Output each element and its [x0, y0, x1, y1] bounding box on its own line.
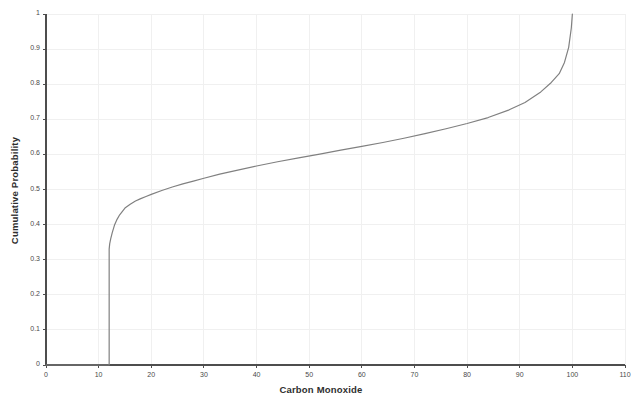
x-tick-label: 70 [399, 371, 429, 378]
plot-canvas [0, 0, 642, 408]
y-tick-label: 0.9 [12, 44, 40, 51]
tick-marks [43, 14, 625, 368]
y-tick-label: 1 [12, 9, 40, 16]
x-tick-label: 10 [84, 371, 114, 378]
y-tick-label: 0.5 [12, 185, 40, 192]
x-tick-label: 0 [31, 371, 61, 378]
y-tick-label: 0.8 [12, 79, 40, 86]
x-tick-label: 90 [505, 371, 535, 378]
y-tick-label: 0.6 [12, 149, 40, 156]
x-tick-label: 20 [136, 371, 166, 378]
y-tick-label: 0 [12, 360, 40, 367]
x-axis-label: Carbon Monoxide [0, 384, 642, 395]
x-tick-label: 50 [294, 371, 324, 378]
y-tick-label: 0.4 [12, 220, 40, 227]
chart-figure: 00.10.20.30.40.50.60.70.80.91 0102030405… [0, 0, 642, 408]
y-tick-label: 0.1 [12, 325, 40, 332]
x-tick-label: 80 [452, 371, 482, 378]
y-tick-label: 0.7 [12, 114, 40, 121]
x-tick-label: 100 [557, 371, 587, 378]
x-tick-label: 60 [347, 371, 377, 378]
x-tick-label: 110 [610, 371, 640, 378]
y-tick-label: 0.3 [12, 255, 40, 262]
x-tick-label: 40 [242, 371, 272, 378]
y-tick-label: 0.2 [12, 290, 40, 297]
x-tick-label: 30 [189, 371, 219, 378]
gridlines [46, 14, 625, 365]
